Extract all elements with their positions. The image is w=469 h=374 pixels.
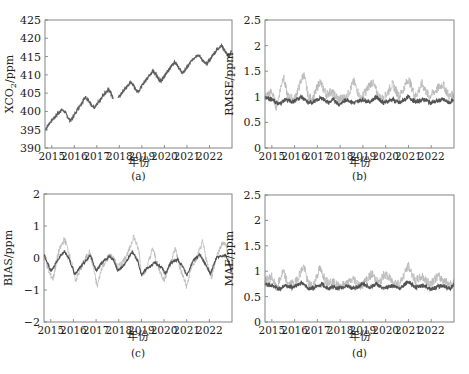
y-tick-label: −1	[24, 284, 40, 297]
y-tick-label: 0	[33, 252, 40, 265]
y-tick-label: 0.5	[244, 116, 262, 129]
y-tick-label: 425	[20, 14, 41, 27]
panel-c: −2−101220152016201720182019202020212022年…	[2, 188, 232, 359]
y-tick-label: 415	[20, 51, 41, 64]
panel-caption: (d)	[352, 347, 367, 359]
y-tick-label: 395	[20, 124, 41, 137]
y-tick-label: 1.5	[244, 240, 262, 253]
y-tick-label: 1	[33, 220, 40, 233]
plot-area	[44, 235, 232, 289]
y-axis-label: XCO2/ppm	[3, 54, 18, 113]
y-tick-label: 2	[33, 188, 40, 201]
y-tick-label: 0.5	[244, 291, 262, 304]
y-axis-label: BIAS/ppm	[2, 229, 15, 286]
panel-caption: (b)	[352, 170, 367, 182]
x-tick-label: 2022	[418, 150, 445, 162]
y-tick-label: 1	[254, 265, 261, 278]
plot-area	[265, 262, 454, 291]
x-axis-label: 年份	[349, 329, 371, 343]
panel-caption: (a)	[131, 170, 145, 182]
x-tick-label: 2022	[418, 324, 445, 336]
chart-canvas: 3903954004054104154204252015201620172018…	[0, 0, 469, 374]
x-axis-label: 年份	[128, 155, 150, 169]
figure: 3903954004054104154204252015201620172018…	[0, 0, 469, 374]
plot-area	[46, 45, 232, 130]
x-tick-label: 2022	[196, 324, 223, 336]
plot-frame	[45, 20, 232, 148]
series-line-series-light	[265, 72, 454, 111]
plot-frame	[265, 195, 454, 322]
y-tick-label: 1.5	[244, 65, 262, 78]
plot-frame	[44, 194, 232, 322]
series-line-XCO2	[118, 45, 232, 98]
plot-area	[265, 72, 454, 111]
y-tick-label: 1	[254, 91, 261, 104]
panel-caption: (c)	[131, 347, 145, 359]
y-tick-label: 2.5	[244, 189, 262, 202]
x-axis-label: 年份	[349, 155, 371, 169]
y-tick-label: 2.5	[244, 14, 262, 27]
x-tick-label: 2022	[196, 150, 223, 162]
y-axis-label: RMSE/ppm	[223, 52, 236, 116]
panel-a: 3903954004054104154204252015201620172018…	[3, 14, 232, 182]
y-tick-label: 400	[20, 105, 41, 118]
plot-frame	[265, 20, 454, 148]
y-tick-label: 410	[20, 69, 41, 82]
y-axis-label: MAE/ppm	[223, 230, 236, 286]
y-tick-label: 2	[254, 214, 261, 227]
y-tick-label: 420	[20, 32, 41, 45]
panel-b: 00.511.522.52015201620172018201920202021…	[223, 14, 454, 182]
y-tick-label: 2	[254, 40, 261, 53]
x-axis-label: 年份	[127, 329, 149, 343]
y-tick-label: 405	[20, 87, 41, 100]
panel-d: 00.511.522.52015201620172018201920202021…	[223, 189, 454, 359]
series-line-XCO2	[46, 89, 114, 130]
